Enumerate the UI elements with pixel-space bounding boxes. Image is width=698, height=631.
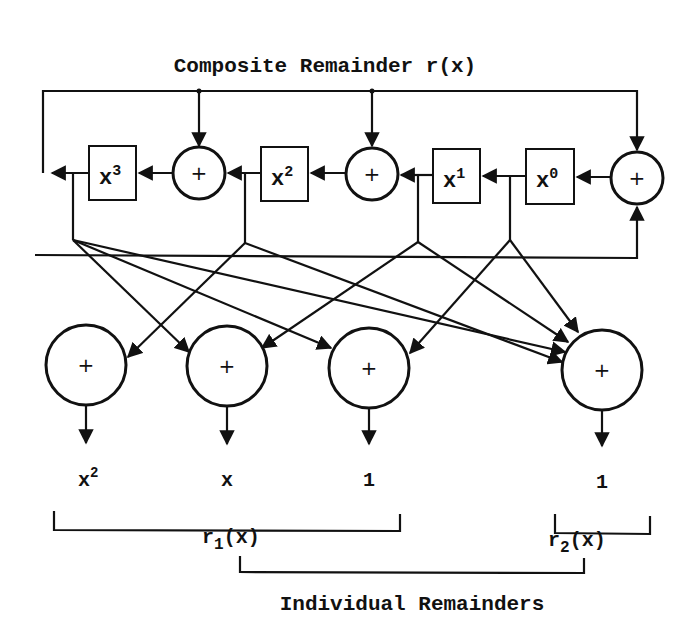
footer-label: Individual Remainders [280, 593, 545, 616]
svg-text:+: + [219, 354, 236, 378]
adder-bottom-2: + [187, 326, 267, 444]
adder-bottom-4: + [562, 330, 642, 446]
output-r2-1: 1 [596, 471, 608, 494]
diagram-title: Composite Remainder r(x) [174, 55, 476, 78]
svg-text:+: + [361, 356, 378, 380]
register-x1: x1 [433, 149, 480, 203]
svg-text:+: + [191, 161, 208, 185]
output-1: 1 [363, 469, 375, 492]
bracket-individual [240, 556, 584, 573]
register-x2: x2 [261, 147, 308, 201]
adder-top-1: + [173, 147, 225, 199]
svg-text:+: + [594, 358, 611, 382]
label-r2: r2(x) [548, 529, 606, 557]
svg-text:+: + [78, 353, 95, 377]
adder-top-2: + [346, 148, 398, 200]
register-x0: x0 [526, 149, 574, 204]
adder-bottom-3: + [329, 328, 409, 444]
output-x: x [221, 469, 233, 492]
svg-text:+: + [364, 162, 381, 186]
label-r1: r1(x) [202, 526, 260, 554]
adder-top-3: + [611, 152, 663, 204]
svg-text:+: + [629, 166, 646, 190]
composite-remainder-diagram: Composite Remainder r(x) x3 x2 x1 x0 [0, 0, 698, 631]
adder-bottom-1: + [46, 325, 126, 443]
register-x3: x3 [89, 146, 136, 200]
output-x2: x2 [78, 465, 98, 492]
